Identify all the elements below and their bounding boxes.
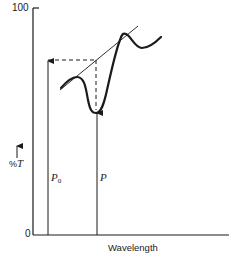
- y-axis-label-var: T: [17, 157, 23, 169]
- p0-label: P0: [51, 172, 61, 185]
- diagram-canvas: [0, 0, 238, 258]
- x-axis-label: Wavelength: [108, 243, 158, 253]
- y-axis-min-label: 0: [25, 229, 31, 239]
- p0-label-main: P: [51, 171, 58, 183]
- p-label: P: [100, 172, 107, 183]
- transmittance-diagram: 100 0 %T P0 P Wavelength: [0, 0, 238, 258]
- p0-label-subscript: 0: [58, 177, 62, 185]
- y-axis-max-label: 100: [12, 3, 29, 13]
- spectrum-curve: [61, 34, 161, 113]
- y-axis-label: %T: [9, 158, 23, 169]
- y-axis-label-prefix: %: [9, 159, 17, 169]
- baseline-tangent-line: [60, 26, 138, 90]
